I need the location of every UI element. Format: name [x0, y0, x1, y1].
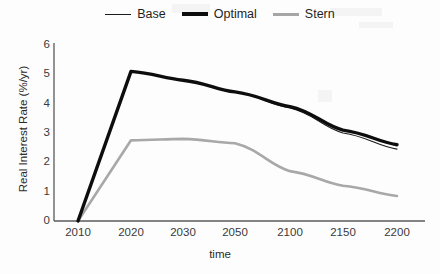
series-group	[78, 71, 397, 221]
legend-swatch-base-icon	[105, 14, 131, 15]
legend-label-base: Base	[137, 8, 166, 21]
legend-item-base: Base	[105, 8, 166, 21]
chart-canvas	[0, 30, 440, 274]
legend-label-stern: Stern	[305, 8, 335, 21]
legend-item-stern: Stern	[273, 8, 335, 21]
legend-swatch-stern-icon	[273, 13, 299, 16]
legend-item-optimal: Optimal	[182, 8, 257, 21]
chart-figure: Base Optimal Stern Real Interest Rate (%…	[0, 0, 440, 274]
plot-area: Real Interest Rate (%/yr) time 6 5 4 3 2…	[0, 30, 440, 274]
scan-artifact	[359, 22, 393, 28]
series-line-stern	[78, 139, 397, 221]
chart-legend: Base Optimal Stern	[0, 8, 440, 21]
legend-label-optimal: Optimal	[214, 8, 257, 21]
legend-swatch-optimal-icon	[182, 12, 208, 16]
